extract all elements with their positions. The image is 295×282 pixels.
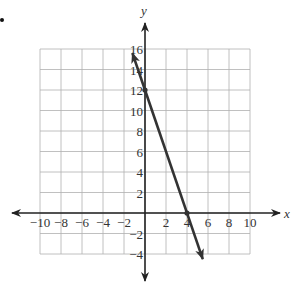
tick-labels: −10−8−6−4−2246810−4−2246810121416 <box>30 42 257 262</box>
x-tick-label: −6 <box>75 215 89 230</box>
y-tick-label: −2 <box>129 227 143 242</box>
coordinate-plane: −10−8−6−4−2246810−4−2246810121416 x y <box>0 0 295 282</box>
y-tick-label: 12 <box>130 83 143 98</box>
y-tick-label: 6 <box>137 145 144 160</box>
y-tick-label: 4 <box>137 165 144 180</box>
y-tick-label: 10 <box>130 104 143 119</box>
y-axis-label: y <box>139 3 147 18</box>
y-tick-label: −4 <box>129 247 143 262</box>
y-tick-label: 2 <box>137 186 144 201</box>
x-tick-label: −10 <box>30 215 50 230</box>
x-tick-label: 2 <box>163 215 170 230</box>
y-tick-label: 8 <box>137 124 144 139</box>
x-tick-label: 6 <box>205 215 212 230</box>
axes <box>12 23 280 281</box>
x-tick-label: −4 <box>96 215 110 230</box>
x-axis-label: x <box>283 206 290 221</box>
x-tick-label: −8 <box>54 215 68 230</box>
x-tick-label: 8 <box>226 215 233 230</box>
marked-point <box>142 87 147 92</box>
x-tick-label: 10 <box>244 215 257 230</box>
marked-point <box>184 210 189 215</box>
